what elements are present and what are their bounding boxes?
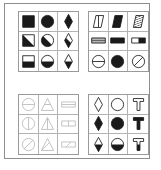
parallelogram-solid-icon — [109, 13, 126, 30]
matrix-cell-circle-solid — [109, 115, 129, 135]
matrix-cell-diamond-bottom-half — [89, 134, 109, 154]
matrix-cell-triangle-horizontal-line — [39, 95, 59, 115]
matrix-cell-tshape-bottom-half — [128, 134, 148, 154]
matrix-cell-diamond-solid — [89, 115, 109, 135]
tshape-outline-icon — [130, 96, 147, 113]
diamond-outline-icon — [90, 96, 107, 113]
circle-horizontal-line-icon — [20, 96, 37, 113]
circle-diagonal-line-icon — [130, 53, 147, 70]
diamond-solid-icon — [60, 13, 77, 30]
rectangle-horizontal-line-icon — [60, 96, 77, 113]
tshape-bottom-half-icon — [130, 136, 147, 153]
matrix-cell-circle-solid — [39, 12, 59, 32]
matrix-cell-diamond-diagonal-half — [58, 32, 78, 52]
matrix-cell-parallelogram-solid — [109, 12, 129, 32]
matrix-cell-circle-vertical-line — [19, 115, 39, 135]
circle-solid-icon — [109, 53, 126, 70]
matrix-cell-square-diagonal-half — [19, 32, 39, 52]
matrix-cell-circle-outline — [109, 95, 129, 115]
matrix-cell-triangle-vertical-line — [39, 115, 59, 135]
matrix-cell-diamond-bottom-half — [58, 51, 78, 71]
tshape-solid-icon — [130, 115, 147, 132]
circle-outline-icon — [109, 96, 126, 113]
shape-matrix-bottom-right — [88, 94, 149, 155]
circle-solid-icon — [109, 115, 126, 132]
circle-bottom-half-icon — [109, 136, 126, 153]
rectangle-striped-icon — [90, 32, 107, 49]
triangle-vertical-line-icon — [39, 115, 56, 132]
matrix-cell-rectangle-solid — [109, 32, 129, 52]
shape-matrix-top-right — [88, 11, 149, 72]
figure-panel — [4, 3, 150, 159]
matrix-cell-circle-diagonal-half — [39, 32, 59, 52]
matrix-cell-square-bottom-half — [19, 51, 39, 71]
parallelogram-outline-icon — [90, 13, 107, 30]
parallelogram-hatched-icon — [130, 13, 147, 30]
square-diagonal-half-icon — [20, 32, 37, 49]
matrix-cell-square-solid — [19, 12, 39, 32]
diamond-bottom-half-icon — [60, 53, 77, 70]
diamond-diagonal-half-icon — [60, 32, 77, 49]
shape-matrix-bottom-left — [18, 94, 79, 155]
matrix-cell-circle-diagonal-line — [128, 51, 148, 71]
circle-diagonal-half-icon — [39, 32, 56, 49]
matrix-cell-parallelogram-hatched — [128, 12, 148, 32]
circle-solid-icon — [39, 13, 56, 30]
shape-matrix-top-left — [18, 11, 79, 72]
circle-bottom-half-icon — [39, 53, 56, 70]
matrix-cell-diamond-solid — [58, 12, 78, 32]
circle-vertical-line-icon — [20, 115, 37, 132]
square-bottom-half-icon — [20, 53, 37, 70]
matrix-cell-triangle-diagonal-line — [39, 134, 59, 154]
rectangle-diagonal-line-icon — [60, 136, 77, 153]
circle-diagonal-line-icon — [20, 136, 37, 153]
matrix-cell-rectangle-horizontal-line — [58, 95, 78, 115]
matrix-cell-rectangle-vertical-line — [58, 115, 78, 135]
rectangle-solid-icon — [109, 32, 126, 49]
matrix-cell-tshape-solid — [128, 115, 148, 135]
matrix-cell-parallelogram-outline — [89, 12, 109, 32]
rectangle-vertical-line-icon — [60, 115, 77, 132]
matrix-cell-circle-bottom-half — [109, 134, 129, 154]
matrix-cell-circle-horizontal-line — [19, 95, 39, 115]
matrix-cell-tshape-outline — [128, 95, 148, 115]
matrix-cell-rectangle-diagonal-line — [58, 134, 78, 154]
matrix-cell-rectangle-right-half — [128, 32, 148, 52]
matrix-cell-circle-bottom-half — [39, 51, 59, 71]
matrix-cell-rectangle-striped — [89, 32, 109, 52]
matrix-cell-circle-horizontal-line — [89, 51, 109, 71]
triangle-diagonal-line-icon — [39, 136, 56, 153]
matrix-cell-circle-solid — [109, 51, 129, 71]
matrix-cell-circle-diagonal-line — [19, 134, 39, 154]
diamond-solid-icon — [90, 115, 107, 132]
matrix-cell-diamond-outline — [89, 95, 109, 115]
diamond-bottom-half-icon — [90, 136, 107, 153]
triangle-horizontal-line-icon — [39, 96, 56, 113]
square-solid-icon — [20, 13, 37, 30]
rectangle-right-half-icon — [130, 32, 147, 49]
circle-horizontal-line-icon — [90, 53, 107, 70]
